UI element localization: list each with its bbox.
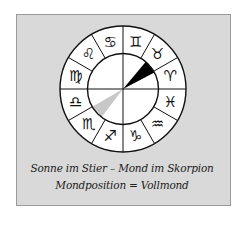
sign-aquarius-icon: ♒ [151,115,164,133]
sign-libra-icon: ♎ [69,93,82,111]
sign-capricorn-icon: ♑ [129,127,142,145]
sign-leo-icon: ♌ [82,45,95,63]
sign-cancer-icon: ♋ [104,33,117,51]
sign-pisces-icon: ♓ [164,93,177,111]
caption-moon-position: Mondposition = Vollmond [0,179,244,191]
sign-sagittarius-icon: ♐ [104,127,117,145]
sign-virgo-icon: ♍ [69,67,82,85]
caption-sun-moon: Sonne im Stier – Mond im Skorpion [0,162,244,174]
sign-scorpio-icon: ♏ [82,115,96,133]
sign-aries-icon: ♈ [164,67,177,85]
sign-taurus-icon: ♉ [151,45,164,63]
sign-gemini-icon: ♊ [129,33,142,51]
